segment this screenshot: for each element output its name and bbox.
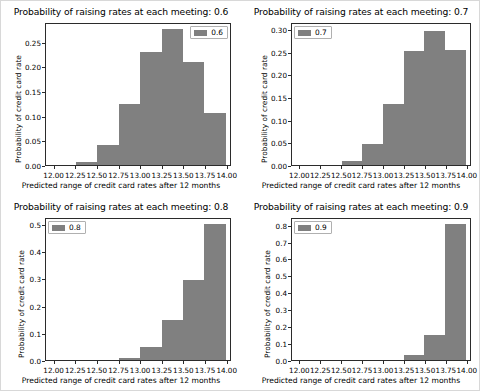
x-tick-mark [162,361,163,364]
x-tick-mark [425,166,426,169]
x-tick-label: 12.00 [289,171,310,180]
y-tick-label: 0.05 [271,139,287,148]
y-tick-mark [288,361,291,362]
legend-box[interactable]: 0.7 [294,26,332,39]
axes-frame [45,218,231,361]
axes-frame [45,23,231,166]
y-axis-label: Probability of credit card rate [263,250,272,358]
y-tick-label: 0.30 [271,25,287,34]
x-tick-mark [227,166,228,169]
subplot-bottom-right: Probability of raising rates at each mee… [241,197,480,391]
x-tick-mark [183,361,184,364]
y-tick-mark [288,53,291,54]
legend-box[interactable]: 0.6 [190,26,228,39]
y-tick-mark [288,310,291,311]
x-tick-label: 12.25 [310,171,331,180]
y-tick-mark [42,141,45,142]
y-tick-mark [42,334,45,335]
y-tick-mark [288,327,291,328]
x-tick-mark [205,166,206,169]
x-tick-mark [183,166,184,169]
histogram-bar [76,162,97,165]
legend-box[interactable]: 0.8 [48,221,86,234]
y-tick-mark [42,43,45,44]
x-tick-mark [362,166,363,169]
x-tick-mark [162,166,163,169]
x-tick-mark [341,361,342,364]
y-tick-label: 0.4 [30,248,41,257]
x-tick-mark [97,166,98,169]
bars-group [292,219,470,360]
subplot-title: Probability of raising rates at each mee… [1,6,241,17]
x-tick-label: 14.00 [216,171,237,180]
plot-area-wrap: 0.00.10.20.30.40.5 12.0012.2512.5012.751… [45,218,231,361]
y-tick-label: 0.20 [271,71,287,80]
x-tick-label: 13.00 [373,366,394,375]
y-tick-label: 0.0 [30,357,41,366]
y-tick-mark [288,121,291,122]
histogram-bar [445,224,466,360]
x-axis-label: Predicted range of credit card rates aft… [1,376,241,385]
x-tick-label: 13.25 [151,171,172,180]
bars-group [46,219,230,360]
histogram-bar [204,113,225,166]
x-tick-mark [341,166,342,169]
y-axis-label: Probability of credit card rate [14,55,23,163]
histogram-bar [342,161,363,165]
x-tick-mark [425,361,426,364]
bars-group [292,24,470,165]
bars-group [46,24,230,165]
subplot-title: Probability of raising rates at each mee… [1,201,241,212]
y-tick-mark [288,30,291,31]
x-tick-mark [140,166,141,169]
x-tick-mark [205,361,206,364]
y-tick-label: 0.5 [276,272,287,281]
histogram-bar [424,335,445,360]
x-tick-label: 14.00 [457,366,478,375]
axes-frame [291,218,471,361]
x-tick-label: 13.75 [436,171,457,180]
x-tick-mark [446,166,447,169]
x-tick-mark [119,166,120,169]
y-tick-label: 0.1 [30,329,41,338]
x-tick-label: 13.50 [173,366,194,375]
legend-box[interactable]: 0.9 [294,221,332,234]
x-tick-label: 12.25 [65,366,86,375]
plot-area-wrap: 0.00.10.20.30.40.50.60.70.8 12.0012.2512… [291,218,471,361]
x-tick-mark [75,361,76,364]
y-tick-label: 0.3 [276,306,287,315]
x-tick-mark [383,166,384,169]
x-axis-label: Predicted range of credit card rates aft… [241,181,480,190]
x-tick-mark [75,166,76,169]
y-tick-mark [288,226,291,227]
x-tick-label: 13.00 [130,171,151,180]
x-tick-label: 13.25 [394,366,415,375]
y-tick-label: 0.7 [276,238,287,247]
y-tick-mark [288,166,291,167]
x-tick-mark [227,361,228,364]
histogram-bar [404,51,425,165]
x-tick-mark [404,166,405,169]
y-axis-label: Probability of credit card rate [260,55,269,163]
x-tick-label: 14.00 [216,366,237,375]
x-tick-mark [54,166,55,169]
y-tick-mark [42,361,45,362]
x-tick-label: 12.50 [331,171,352,180]
y-tick-mark [42,67,45,68]
y-tick-mark [288,293,291,294]
histogram-bar [404,355,425,360]
x-tick-label: 12.25 [310,366,331,375]
subplot-title: Probability of raising rates at each mee… [241,201,480,212]
histogram-bar [383,104,404,165]
y-tick-mark [42,252,45,253]
x-tick-label: 12.75 [352,366,373,375]
x-tick-mark [54,361,55,364]
x-tick-mark [320,166,321,169]
x-tick-mark [140,361,141,364]
axes-frame [291,23,471,166]
y-tick-label: 0.8 [276,221,287,230]
x-tick-mark [362,361,363,364]
x-tick-label: 13.50 [173,171,194,180]
legend-label: 0.6 [211,29,223,36]
x-tick-label: 14.00 [457,171,478,180]
